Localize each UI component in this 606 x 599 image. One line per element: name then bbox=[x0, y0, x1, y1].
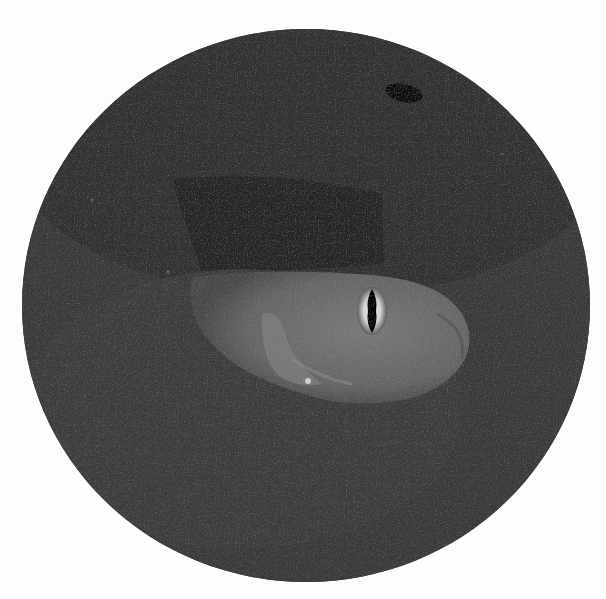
burrow-shadow bbox=[172, 176, 384, 274]
circular-photo bbox=[22, 29, 590, 582]
mouth-highlight bbox=[305, 378, 311, 384]
fish-photo-illustration bbox=[22, 29, 590, 582]
